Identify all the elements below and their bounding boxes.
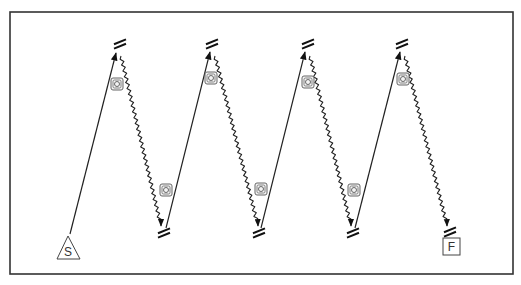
solid-run-arrow-2	[166, 52, 210, 228]
solid-run-arrow-1	[70, 53, 116, 234]
wavy-run-arrow-2	[214, 56, 258, 226]
bottom-cone-icon-3	[347, 228, 359, 237]
icons	[111, 72, 409, 196]
camera-icon	[302, 76, 314, 88]
bottom-cone-icon-4	[444, 227, 456, 236]
solid-run-arrow-3	[261, 52, 305, 228]
wavy-run-arrow-1	[120, 56, 161, 226]
bottom-cone-icon-1	[158, 228, 170, 237]
run-lines	[70, 52, 447, 234]
finish-marker: F	[443, 238, 460, 255]
camera-icon	[160, 184, 172, 196]
solid-run-arrow-4	[355, 52, 400, 228]
drill-diagram: S F	[0, 0, 521, 285]
camera-icon	[255, 183, 267, 195]
bottom-cone-icon-2	[253, 228, 265, 237]
camera-icon	[111, 78, 123, 90]
wavy-run-arrow-4	[404, 56, 447, 226]
camera-icon	[205, 72, 217, 84]
finish-label: F	[448, 240, 455, 254]
start-label: S	[64, 245, 72, 259]
top-cone-icon-2	[206, 39, 218, 48]
wavy-run-arrow-3	[309, 56, 351, 226]
camera-icon	[348, 184, 360, 196]
start-marker: S	[57, 236, 80, 259]
cones	[114, 39, 456, 237]
top-cone-icon-1	[114, 39, 126, 48]
top-cone-icon-3	[302, 39, 314, 48]
top-cone-icon-4	[396, 39, 408, 48]
camera-icon	[397, 73, 409, 85]
